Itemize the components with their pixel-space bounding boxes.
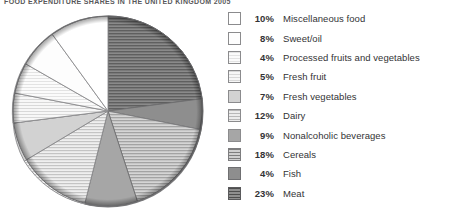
legend-label: Processed fruits and vegetables	[283, 52, 420, 63]
legend-label: Fresh vegetables	[283, 91, 357, 102]
page-title: FOOD EXPENDITURE SHARES IN THE UNITED KI…	[4, 0, 231, 6]
pie-chart	[9, 12, 207, 210]
pie-chart-figure: FOOD EXPENDITURE SHARES IN THE UNITED KI…	[0, 0, 452, 214]
legend-swatch-cereals	[228, 148, 241, 161]
legend-item[interactable]: 18% Cereals	[228, 145, 448, 164]
legend-swatch-meat	[228, 187, 241, 200]
legend-label: Nonalcoholic beverages	[283, 130, 386, 141]
legend-label: Fish	[283, 168, 301, 179]
pie-rim	[13, 16, 203, 206]
legend-item[interactable]: 9% Nonalcoholic beverages	[228, 125, 448, 144]
legend-swatch-sweet-oil	[228, 32, 241, 45]
pie-svg	[9, 12, 207, 210]
legend-swatch-dairy	[228, 109, 241, 122]
legend-swatch-fresh-fruit	[228, 70, 241, 83]
legend-label: Sweet/oil	[283, 33, 322, 44]
legend-percent: 5%	[241, 71, 283, 82]
legend-swatch-fish	[228, 167, 241, 180]
legend-percent: 18%	[241, 149, 283, 160]
legend-item[interactable]: 4% Fish	[228, 164, 448, 183]
legend-swatch-processed-fruits-vegetables	[228, 51, 241, 64]
legend-item[interactable]: 8% Sweet/oil	[228, 28, 448, 47]
legend-percent: 7%	[241, 91, 283, 102]
legend-label: Fresh fruit	[283, 71, 326, 82]
chart-legend: 10% Miscellaneous food 8% Sweet/oil 4% P…	[228, 9, 448, 203]
legend-swatch-fresh-vegetables	[228, 90, 241, 103]
legend-item[interactable]: 23% Meat	[228, 184, 448, 203]
legend-swatch-nonalcoholic-beverages	[228, 129, 241, 142]
legend-item[interactable]: 4% Processed fruits and vegetables	[228, 48, 448, 67]
legend-percent: 4%	[241, 52, 283, 63]
legend-swatch-miscellaneous-food	[228, 12, 241, 25]
legend-item[interactable]: 10% Miscellaneous food	[228, 9, 448, 28]
legend-percent: 23%	[241, 188, 283, 199]
legend-label: Dairy	[283, 110, 305, 121]
legend-label: Cereals	[283, 149, 316, 160]
legend-item[interactable]: 12% Dairy	[228, 106, 448, 125]
legend-label: Meat	[283, 188, 304, 199]
legend-percent: 10%	[241, 13, 283, 24]
legend-item[interactable]: 7% Fresh vegetables	[228, 87, 448, 106]
legend-percent: 9%	[241, 130, 283, 141]
legend-percent: 4%	[241, 168, 283, 179]
legend-percent: 8%	[241, 33, 283, 44]
legend-percent: 12%	[241, 110, 283, 121]
legend-item[interactable]: 5% Fresh fruit	[228, 67, 448, 86]
legend-label: Miscellaneous food	[283, 13, 365, 24]
